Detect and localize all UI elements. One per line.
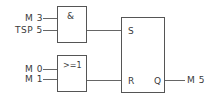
set-pin-label: S <box>128 26 134 36</box>
and-gate: & <box>57 6 87 43</box>
rs-flipflop: S R Q <box>121 17 165 93</box>
or-gate-symbol: >=1 <box>63 61 82 71</box>
wire-m3 <box>43 18 57 19</box>
input-label-m0: M 0 <box>25 64 43 74</box>
wire-m0 <box>43 69 57 70</box>
output-label-m5: M 5 <box>187 75 205 85</box>
output-pin-label: Q <box>154 76 161 86</box>
input-label-tsp5: TSP 5 <box>15 25 43 35</box>
wire-and-to-set <box>87 30 121 31</box>
wire-or-to-reset <box>87 80 121 81</box>
and-gate-symbol: & <box>67 11 74 21</box>
or-gate: >=1 <box>57 55 87 92</box>
input-label-m1: M 1 <box>25 74 43 84</box>
reset-pin-label: R <box>128 76 134 86</box>
input-label-m3: M 3 <box>25 13 43 23</box>
wire-output <box>165 80 185 81</box>
wire-m1 <box>43 79 57 80</box>
wire-tsp5 <box>43 30 57 31</box>
